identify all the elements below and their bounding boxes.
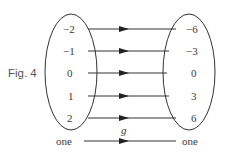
domain-value: 1 [68,90,74,102]
codomain-value: 0 [191,67,197,79]
domain-value: −1 [63,45,75,57]
arrowhead-icon [119,26,129,32]
figure-caption: Fig. 4 [8,67,37,79]
domain-value: −2 [63,23,75,35]
domain-value: 2 [67,112,73,124]
bottom-left-label: one [56,135,72,147]
codomain-value: 3 [191,90,197,102]
arrowhead-icon [119,115,129,121]
codomain-value: −6 [186,23,198,35]
domain-value: 0 [67,67,73,79]
arrowhead-icon [119,70,129,76]
codomain-value: −3 [186,45,198,57]
arrowhead-icon [119,138,129,144]
domain-values: −2 −1 0 1 2 [63,23,75,124]
arrowhead-icon [119,93,129,99]
codomain-values: −6 −3 0 3 6 [186,23,198,124]
bottom-right-label: one [182,135,198,147]
mapping-arrows [84,29,176,141]
codomain-value: 6 [191,112,197,124]
function-label: g [121,124,127,136]
arrowhead-icon [119,48,129,54]
mapping-diagram: Fig. 4 −2 −1 0 1 2 −6 −3 0 3 6 g one one [0,0,228,157]
